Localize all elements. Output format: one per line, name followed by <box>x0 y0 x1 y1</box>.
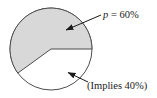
slice-label-p: p = 60% <box>103 10 139 21</box>
pie-chart-figure: p = 60% (Implies 40%) <box>0 0 157 98</box>
slice-label-p-value: = 60% <box>108 9 138 20</box>
slice-label-implies: (Implies 40%) <box>87 81 147 92</box>
